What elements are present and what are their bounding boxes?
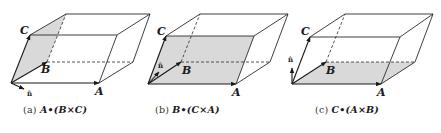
label-a: A <box>376 86 386 99</box>
normal-n-arrow <box>11 83 24 89</box>
caption-tag: (a) <box>23 104 37 115</box>
caption-expression: B•(C×A) <box>172 104 219 115</box>
panel-a-diagram: C B A n̂ <box>11 14 150 98</box>
caption-tag: (c) <box>315 104 328 115</box>
label-a: A <box>231 86 241 99</box>
label-a: A <box>94 85 104 98</box>
caption-c: (c) C•(A×B) <box>315 104 379 115</box>
label-c: C <box>301 25 310 38</box>
caption-expression: A•(B×C) <box>40 104 87 115</box>
label-b: B <box>181 64 191 77</box>
caption-expression: C•(A×B) <box>332 104 379 115</box>
panel-b-diagram: C B A n̂ <box>148 14 288 99</box>
label-b: B <box>325 64 335 77</box>
caption-a: (a) A•(B×C) <box>23 104 87 115</box>
label-normal: n̂ <box>288 55 293 64</box>
caption-tag: (b) <box>155 104 169 115</box>
label-normal: n̂ <box>27 89 32 98</box>
shaded-face-ca <box>148 36 254 84</box>
label-c: C <box>20 24 29 37</box>
label-c: C <box>157 25 166 38</box>
caption-b: (b) B•(C×A) <box>155 104 220 115</box>
panel-c-diagram: C B A n̂ <box>288 14 433 99</box>
shaded-face-ab <box>292 62 415 84</box>
label-b: B <box>40 63 50 76</box>
label-normal: n̂ <box>158 61 163 70</box>
